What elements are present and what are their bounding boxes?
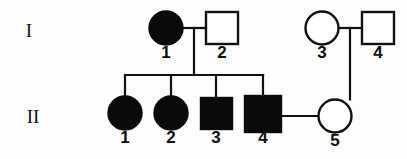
individual-ii-5-id-label: 5 xyxy=(330,131,339,150)
generation-labels-group: III xyxy=(26,20,39,127)
individual-i-4-square-open[interactable] xyxy=(362,12,394,44)
individual-ii-4-id-label: 4 xyxy=(258,128,268,147)
individual-i-4-id-label: 4 xyxy=(373,43,383,62)
generation-label-ii: II xyxy=(27,106,40,127)
individual-ii-4-square-filled[interactable] xyxy=(245,96,281,132)
individual-i-1-id-label: 1 xyxy=(161,43,170,62)
individual-i-3-circle-open[interactable] xyxy=(306,12,339,45)
individual-i-2-id-label: 2 xyxy=(217,43,226,62)
individual-ii-3-square-filled[interactable] xyxy=(201,98,232,129)
individual-ii-5-circle-open[interactable] xyxy=(319,100,352,133)
individual-ii-1-id-label: 1 xyxy=(120,128,129,147)
individual-ii-2-id-label: 2 xyxy=(166,128,175,147)
generation-label-i: I xyxy=(26,20,32,41)
pedigree-diagram: 123412345 III xyxy=(0,0,407,159)
individual-i-1-circle-filled[interactable] xyxy=(150,12,183,45)
individual-i-2-square-open[interactable] xyxy=(206,12,238,44)
individual-ii-3-id-label: 3 xyxy=(211,128,220,147)
individual-ii-1-circle-filled[interactable] xyxy=(109,97,142,130)
individual-i-3-id-label: 3 xyxy=(317,43,326,62)
pedigree-chart: 123412345 III xyxy=(0,0,407,159)
individual-symbols-group xyxy=(109,12,395,133)
individual-ii-2-circle-filled[interactable] xyxy=(155,97,188,130)
